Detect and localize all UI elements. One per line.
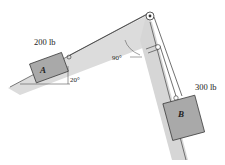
- left-incline-surface: [8, 15, 152, 95]
- block-a-label: A: [39, 65, 46, 75]
- pulley-icon: [146, 12, 154, 20]
- block-b-weight: 300 lb: [195, 82, 217, 92]
- block-b-label: B: [177, 109, 184, 119]
- block-a-weight: 200 lb: [34, 37, 56, 47]
- pulley-incline-diagram: A 200 lb 90° 20° B 300 lb: [0, 0, 225, 165]
- incline-angle-label: 20°: [70, 76, 80, 84]
- apex-angle-label: 90°: [112, 54, 122, 62]
